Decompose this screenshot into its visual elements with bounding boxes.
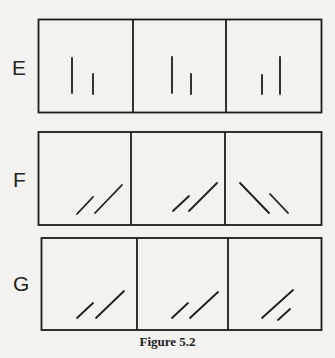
row-label-e: E xyxy=(12,57,26,78)
row-f-strokes xyxy=(77,183,288,214)
row-label-f: F xyxy=(13,169,26,190)
row-f-panel-1-stroke-1 xyxy=(77,197,93,214)
row-g-panel-3-stroke-2 xyxy=(278,309,290,320)
row-g-panel-1-stroke-2 xyxy=(96,291,124,318)
figure-caption: Figure 5.2 xyxy=(0,334,335,350)
row-g-frame xyxy=(42,238,322,330)
row-e-box xyxy=(39,20,322,113)
row-f-panel-2-stroke-2 xyxy=(189,183,217,211)
row-g-panel-1-stroke-1 xyxy=(77,303,93,318)
row-f-panel-2-stroke-1 xyxy=(173,196,189,211)
row-f-panel-3-stroke-1 xyxy=(240,183,269,213)
figure-5-2-graphic xyxy=(0,0,335,358)
row-g-panel-3-stroke-1 xyxy=(262,290,293,318)
row-label-g: G xyxy=(13,273,29,294)
row-g-box xyxy=(42,238,322,330)
row-g-strokes xyxy=(77,290,293,320)
row-f-panel-3-stroke-2 xyxy=(270,194,288,213)
row-g-panel-2-stroke-1 xyxy=(172,303,188,318)
row-e-strokes xyxy=(72,57,280,94)
row-e-frame xyxy=(39,20,322,113)
row-f-panel-1-stroke-2 xyxy=(95,185,122,213)
row-g-panel-2-stroke-2 xyxy=(190,292,218,318)
